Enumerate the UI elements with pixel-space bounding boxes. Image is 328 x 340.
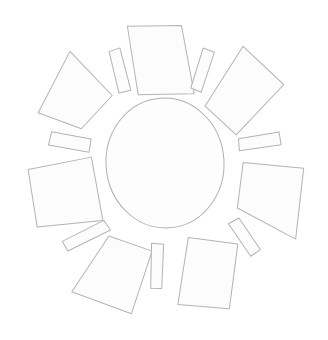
core-group <box>102 94 229 232</box>
petal-lower-left <box>68 233 156 318</box>
figure-canvas <box>0 0 328 340</box>
ray-top-left <box>109 47 131 93</box>
petal-bottom <box>173 234 242 312</box>
petal-left <box>28 157 103 228</box>
center-disc <box>102 94 229 232</box>
petal-upper-right <box>201 44 287 137</box>
ray-right-upper <box>238 132 281 151</box>
petal-upper-left <box>34 49 114 132</box>
ray-bottom <box>148 242 167 289</box>
ray-left-upper <box>48 129 92 155</box>
sunburst-figure <box>0 0 328 340</box>
ray-top-right <box>188 47 217 93</box>
petal-top <box>127 22 194 98</box>
